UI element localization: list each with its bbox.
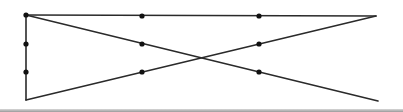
bottom-border bbox=[0, 109, 403, 112]
top-point-2 bbox=[256, 13, 261, 18]
points-group bbox=[23, 12, 261, 74]
mid-point-4 bbox=[256, 69, 261, 74]
mid-point-2 bbox=[139, 69, 144, 74]
vertex-top-left bbox=[23, 12, 28, 17]
lines-group bbox=[26, 15, 378, 101]
top-point-1 bbox=[139, 13, 144, 18]
left-point-1 bbox=[23, 41, 28, 46]
left-point-2 bbox=[23, 69, 28, 74]
mid-point-1 bbox=[139, 41, 144, 46]
geometry-diagram bbox=[0, 0, 403, 112]
mid-point-3 bbox=[256, 41, 261, 46]
top-edge-line bbox=[26, 15, 376, 16]
